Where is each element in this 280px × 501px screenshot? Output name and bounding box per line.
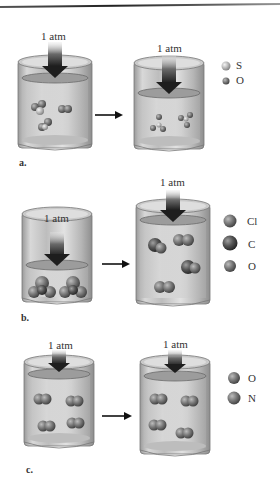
- legend-label: O: [248, 372, 256, 384]
- legend-label: O: [236, 74, 244, 86]
- legend-icons-b: [222, 214, 238, 279]
- pressure-label-right: 1 atm: [160, 176, 185, 188]
- pressure-label-right: 1 atm: [157, 42, 182, 54]
- pressure-label-left: 1 atm: [41, 30, 66, 42]
- pressure-arrow-icon: [48, 42, 62, 66]
- legend-label: N: [248, 392, 256, 404]
- legend-label: O: [248, 260, 256, 272]
- legend-label: Cl: [247, 215, 257, 227]
- panel-label: b.: [21, 312, 29, 323]
- pressure-arrow-icon: [162, 55, 176, 83]
- panel-label: c.: [26, 464, 33, 475]
- container-before: [22, 210, 98, 310]
- pressure-label-left: 1 atm: [44, 212, 69, 224]
- pressure-arrow-icon: [52, 350, 66, 364]
- container-after: [134, 55, 214, 155]
- container-before: [24, 350, 100, 455]
- legend-label: S: [236, 59, 242, 71]
- pressure-arrow-icon: [166, 190, 180, 210]
- legend-icons-a: [220, 60, 232, 90]
- legend-icons-c: [226, 371, 242, 406]
- reaction-arrow-icon: [93, 110, 123, 120]
- container-before: [18, 42, 98, 157]
- top-rule: [0, 3, 280, 8]
- pressure-arrow-icon: [50, 232, 64, 256]
- legend-label: C: [248, 238, 255, 250]
- reaction-arrow-icon: [100, 259, 130, 269]
- pressure-label-right: 1 atm: [163, 338, 188, 350]
- container-after: [140, 350, 216, 460]
- pressure-arrow-icon: [168, 350, 182, 366]
- container-after: [136, 190, 216, 310]
- reaction-arrow-icon: [100, 411, 134, 421]
- panel-label: a.: [19, 157, 27, 168]
